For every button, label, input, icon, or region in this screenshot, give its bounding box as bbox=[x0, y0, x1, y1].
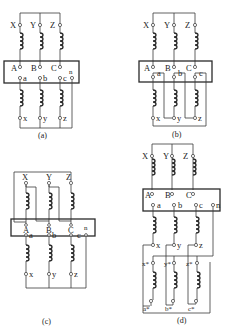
coil-icon bbox=[195, 90, 198, 106]
label-x: x bbox=[23, 113, 28, 123]
coil-icon bbox=[196, 217, 199, 233]
coil-icon bbox=[40, 90, 43, 106]
label-B: B bbox=[165, 190, 171, 200]
coil-icon bbox=[20, 33, 23, 49]
coil-icon bbox=[26, 193, 29, 209]
label-z: z bbox=[199, 240, 203, 250]
label-z: z bbox=[198, 113, 202, 123]
label-x: x bbox=[29, 269, 34, 279]
label-x-star: x* bbox=[142, 260, 150, 268]
label-c: c bbox=[77, 230, 81, 240]
label-B: B bbox=[165, 63, 171, 73]
label-c: c bbox=[63, 73, 67, 83]
coil-icon bbox=[153, 272, 156, 288]
label-A: A bbox=[144, 63, 151, 73]
label-c-star: c* bbox=[188, 305, 195, 313]
coil-icon bbox=[195, 33, 198, 49]
label-A: A bbox=[11, 63, 18, 73]
label-Y: Y bbox=[164, 20, 170, 30]
coil-icon bbox=[172, 159, 175, 175]
transformer-winding-diagrams: X Y Z A B C a b c n x y z (a) X bbox=[0, 0, 235, 335]
label-y: y bbox=[177, 240, 182, 250]
label-n: n bbox=[84, 224, 88, 232]
label-y-star: y* bbox=[164, 260, 172, 268]
label-b: b bbox=[52, 230, 56, 240]
diagram-b: X Y Z A B C a b c x y z (b) bbox=[139, 13, 212, 139]
label-a: a bbox=[29, 230, 33, 240]
label-y: y bbox=[177, 113, 182, 123]
coil-icon bbox=[60, 90, 63, 106]
label-x: x bbox=[156, 240, 161, 250]
label-b: b bbox=[178, 200, 182, 210]
label-z-star: z* bbox=[186, 260, 193, 268]
coil-icon bbox=[60, 33, 63, 49]
label-Z: Z bbox=[50, 20, 55, 30]
diagram-d: X Y Z A B C a b c n x y z x* y* z* bbox=[142, 144, 221, 325]
label-b: b bbox=[43, 73, 47, 83]
label-X: X bbox=[143, 20, 149, 30]
label-x: x bbox=[156, 113, 161, 123]
label-C: C bbox=[51, 63, 57, 73]
coil-icon bbox=[197, 272, 200, 288]
label-A: A bbox=[145, 190, 152, 200]
label-c: c bbox=[199, 200, 203, 210]
coil-icon bbox=[71, 193, 74, 209]
coil-icon bbox=[174, 272, 177, 288]
label-n: n bbox=[69, 68, 73, 76]
label-a: a bbox=[157, 200, 161, 210]
label-y: y bbox=[43, 113, 48, 123]
coil-icon bbox=[40, 33, 43, 49]
label-B: B bbox=[31, 63, 37, 73]
caption-c: (c) bbox=[42, 317, 51, 326]
coil-icon bbox=[174, 217, 177, 233]
label-Y: Y bbox=[163, 151, 169, 161]
coil-icon bbox=[20, 90, 23, 106]
label-Y: Y bbox=[46, 172, 52, 182]
caption-a: (a) bbox=[38, 131, 47, 140]
coil-icon bbox=[71, 245, 74, 261]
label-X: X bbox=[22, 172, 28, 182]
coil-icon bbox=[152, 159, 155, 175]
label-b-star: b* bbox=[165, 305, 173, 313]
coil-icon bbox=[153, 90, 156, 106]
label-Z: Z bbox=[185, 20, 190, 30]
label-a-star: a* bbox=[143, 305, 150, 313]
coil-icon bbox=[26, 245, 29, 261]
coil-icon bbox=[49, 245, 52, 261]
terminal-Y bbox=[38, 23, 41, 26]
coil-icon bbox=[193, 159, 196, 175]
label-X: X bbox=[10, 20, 16, 30]
diagram-a: X Y Z A B C a b c n x y z (a) bbox=[4, 13, 79, 140]
diagram-c: X Y Z A B C a b c n x y z (c) bbox=[11, 172, 95, 326]
label-a: a bbox=[23, 73, 27, 83]
terminal-X bbox=[18, 23, 21, 26]
label-X: X bbox=[142, 151, 148, 161]
coil-icon bbox=[174, 90, 177, 106]
terminal-Z bbox=[58, 23, 61, 26]
label-y: y bbox=[52, 269, 57, 279]
label-z: z bbox=[63, 113, 67, 123]
coil-icon bbox=[174, 33, 177, 49]
label-C: C bbox=[186, 63, 192, 73]
caption-d: (d) bbox=[177, 316, 187, 325]
caption-b: (b) bbox=[172, 130, 182, 139]
label-C: C bbox=[186, 190, 192, 200]
label-z: z bbox=[74, 269, 78, 279]
label-Z: Z bbox=[66, 172, 71, 182]
coil-icon bbox=[153, 33, 156, 49]
coil-icon bbox=[49, 193, 52, 209]
primary-windings: X Y Z bbox=[10, 20, 63, 66]
label-Z: Z bbox=[183, 151, 188, 161]
label-Y: Y bbox=[30, 20, 36, 30]
coil-icon bbox=[153, 217, 156, 233]
